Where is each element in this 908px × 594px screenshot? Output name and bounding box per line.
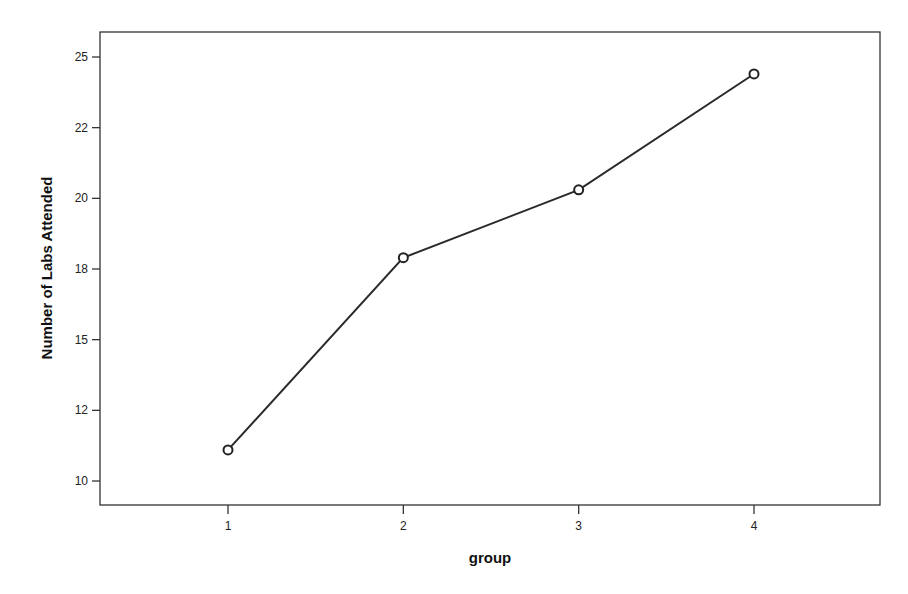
y-tick-label: 22 bbox=[75, 121, 89, 135]
x-axis: 1234 bbox=[225, 505, 758, 533]
y-tick-label: 20 bbox=[75, 191, 89, 205]
x-tick-label: 2 bbox=[400, 519, 407, 533]
y-axis: 10121518202225 bbox=[75, 50, 100, 488]
data-point-marker bbox=[399, 253, 408, 262]
x-tick-label: 4 bbox=[751, 519, 758, 533]
y-tick-label: 25 bbox=[75, 50, 89, 64]
x-tick-label: 3 bbox=[575, 519, 582, 533]
y-tick-label: 10 bbox=[75, 474, 89, 488]
x-axis-title: group bbox=[469, 549, 512, 566]
data-point-marker bbox=[574, 185, 583, 194]
x-tick-label: 1 bbox=[225, 519, 232, 533]
y-axis-title: Number of Labs Attended bbox=[38, 177, 55, 360]
data-point-marker bbox=[224, 445, 233, 454]
y-tick-label: 15 bbox=[75, 333, 89, 347]
y-tick-label: 12 bbox=[75, 403, 89, 417]
plot-frame bbox=[100, 32, 880, 505]
line-chart: 10121518202225 1234 group Number of Labs… bbox=[0, 0, 908, 594]
data-point-marker bbox=[750, 69, 759, 78]
y-tick-label: 18 bbox=[75, 262, 89, 276]
